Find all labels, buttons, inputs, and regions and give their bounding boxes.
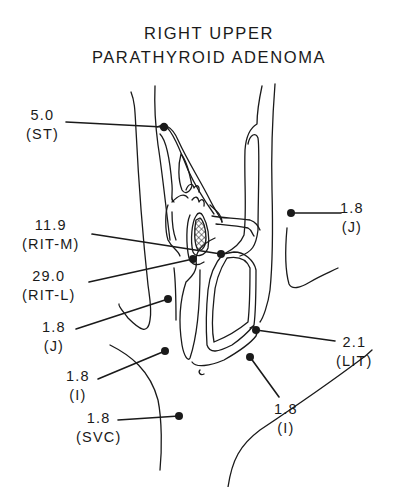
- sample-label-j-left: 1.8 (J): [42, 318, 66, 356]
- sample-label-j-right: 1.8 (J): [340, 199, 364, 237]
- sample-dot-j-right: [287, 209, 295, 217]
- sample-value: 1.8: [340, 199, 364, 218]
- sample-label-lit: 2.1 (LIT): [336, 333, 373, 371]
- sample-site: (I): [274, 419, 298, 438]
- sample-label-i-right: 1.8 (I): [274, 400, 298, 438]
- sample-dot-rit-l: [189, 255, 197, 263]
- sample-dot-i-right: [246, 353, 254, 361]
- sample-dot-i-left: [161, 347, 169, 355]
- sample-dot-lit: [252, 326, 260, 334]
- sample-site: (RIT-M): [22, 235, 80, 254]
- sample-label-svc: 1.8 (SVC): [76, 409, 121, 447]
- sample-pointers: [66, 122, 341, 420]
- sample-site: (ST): [26, 125, 59, 144]
- sample-dot-j-left: [164, 295, 172, 303]
- sample-label-i-left: 1.8 (I): [66, 367, 90, 405]
- sample-dot-st: [160, 123, 168, 131]
- sample-value: 11.9: [22, 216, 80, 235]
- sample-label-st: 5.0 (ST): [26, 106, 59, 144]
- sample-site: (SVC): [76, 428, 121, 447]
- sample-dot-svc: [175, 412, 183, 420]
- right-jugular-vein: [119, 86, 170, 329]
- sample-label-rit-m: 11.9 (RIT-M): [22, 216, 80, 254]
- sample-value: 1.8: [42, 318, 66, 337]
- sample-dot-rit-m: [217, 250, 225, 258]
- sample-value: 29.0: [22, 267, 76, 286]
- sample-site: (RIT-L): [22, 286, 76, 305]
- sample-value: 2.1: [336, 333, 373, 352]
- sample-site: (J): [340, 218, 364, 237]
- sample-value: 1.8: [274, 400, 298, 419]
- sample-site: (J): [42, 337, 66, 356]
- sample-value: 5.0: [26, 106, 59, 125]
- sample-label-rit-l: 29.0 (RIT-L): [22, 267, 76, 305]
- sample-site: (LIT): [336, 352, 373, 371]
- sample-value: 1.8: [66, 367, 90, 386]
- sample-value: 1.8: [76, 409, 121, 428]
- sample-site: (I): [66, 386, 90, 405]
